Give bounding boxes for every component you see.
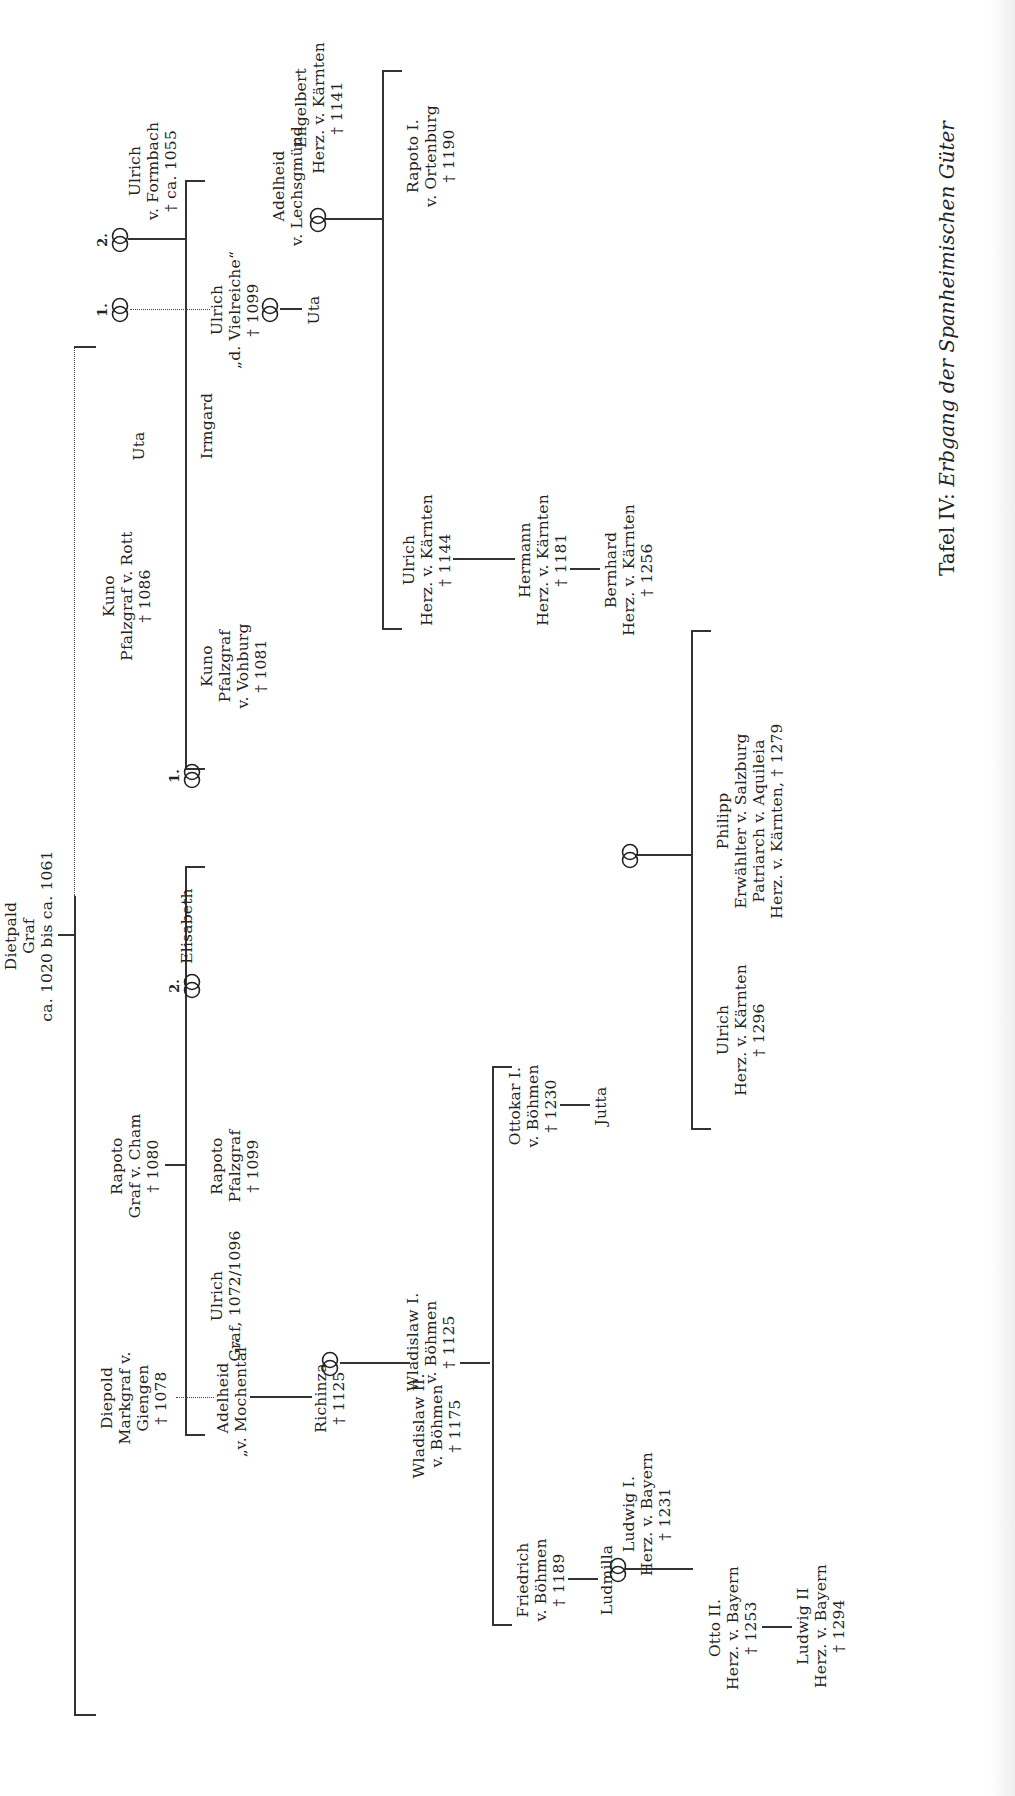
person-rapoto-ortenburg: Rapoto I. v. Ortenburg † 1190 [404,105,458,207]
plate-title: Tafel IV: Erbgang der Spanheimischen Güt… [935,121,959,576]
marriage-rings-icon [609,1557,627,1583]
person-ulrich-formbach: Ulrich v. Formbach † ca. 1055 [126,122,180,220]
person-kuno-vohburg: Kuno Pfalzgraf v. Vohburg † 1081 [198,623,270,708]
person-ulrich-1296: Ulrich Herz. v. Kärnten † 1296 [714,964,768,1096]
marriage-rings-icon: 2. [183,973,201,999]
person-philipp: Philipp Erwählter v. Salzburg Patriarch … [714,723,786,918]
marriage-rings-icon [321,1351,339,1377]
genealogy-plate: Dietpald Graf ca. 1020 bis ca. 1061 Diep… [0,0,1015,1796]
line-dietpald-children [74,896,76,1716]
line-ulrich-hermann [453,559,515,561]
tick-uta-branch [74,347,96,349]
line-ottokar-jutta [560,1105,590,1107]
person-otto-2: Otto II. Herz. v. Bayern † 1253 [706,1566,760,1690]
person-ulrich-vielreiche: Ulrich „d. Vielreiche“ † 1099 [208,251,262,369]
tick-rapoto-ortenburg [382,71,402,73]
person-ludwig-1: Ludwig I. Herz. v. Bayern † 1231 [620,1452,674,1576]
person-ulrich-1144: Ulrich Herz. v. Kärnten † 1144 [400,494,454,626]
person-rapoto-pfalzgraf: Rapoto Pfalzgraf † 1099 [208,1130,262,1203]
person-uta-lower: Uta [305,295,323,324]
line-engelbert-children [382,70,384,630]
tick-ulrich-1296 [691,1129,711,1131]
person-engelbert: Engelbert Herz. v. Kärnten † 1141 [292,42,346,174]
marriage-rings-icon: 2. [111,227,129,253]
line-adelheid-richinza [250,1397,312,1399]
line-bernhard-marriage [636,855,691,857]
line-ulrich-uta [280,309,302,311]
line-rapoto-cham-stem [165,1165,185,1167]
person-friedrich: Friedrich v. Böhmen † 1189 [514,1538,568,1621]
line-hermann-bernhard [570,569,600,571]
dotted-line-uta-ulrich [130,309,210,310]
tick-irmgard [185,181,205,183]
person-hermann: Hermann Herz. v. Kärnten † 1181 [516,494,570,626]
page-edge-shadow [990,0,1015,1796]
line-wladislaw-stem [460,1363,490,1365]
marriage-rings-icon [261,297,279,323]
dotted-line-dietpald-uta [74,346,75,896]
tick-ulrich-graf [185,1435,205,1437]
line-engelbert-stem [325,219,382,221]
person-rapoto-cham: Rapoto Graf v. Cham † 1080 [108,1114,162,1219]
person-wladislaw-2: Wladislaw II. v. Böhmen † 1175 [410,1373,464,1478]
tick-friedrich [492,1625,512,1627]
line-wladislaw-children [492,1066,494,1626]
line-otto-ludwig [762,1627,792,1629]
person-ottokar-1: Ottokar I. v. Böhmen † 1230 [506,1064,560,1147]
line-bernhard-children [691,630,693,1130]
person-bernhard: Bernhard Herz. v. Kärnten † 1256 [602,504,656,636]
marriage-rings-icon [621,843,639,869]
person-kuno-rott: Kuno Pfalzgraf v. Rott † 1086 [100,531,154,660]
line-friedrich-ludmilla [568,1579,598,1581]
marriage-rings-icon [309,207,327,233]
line-kuno-marriage [128,239,185,241]
tick-philipp [691,631,711,633]
line-dietpald-stem [58,935,74,937]
tick-diepold [74,1715,96,1717]
marriage-rings-icon: 1. [183,763,201,789]
tick-rapoto-end [185,867,205,869]
person-jutta: Jutta [592,1087,610,1126]
tick-ulrich-1144 [382,629,402,631]
dotted-line-diepold-adelheid [176,1397,214,1398]
person-uta-top: Uta [130,431,148,460]
marriage-rings-icon: 1. [111,297,129,323]
person-irmgard: Irmgard [198,393,216,459]
person-dietpald: Dietpald Graf ca. 1020 bis ca. 1061 [2,850,56,1021]
person-elisabeth: Elisabeth [178,888,196,964]
line-richinza-wladislaw [340,1363,410,1365]
person-ludwig-2: Ludwig II Herz. v. Bayern † 1294 [794,1564,848,1688]
line-kuno-children [185,180,187,770]
person-diepold: Diepold Markgraf v. Giengen † 1078 [98,1351,170,1444]
person-ulrich-graf: Ulrich Graf, 1072/1096 [208,1230,244,1361]
